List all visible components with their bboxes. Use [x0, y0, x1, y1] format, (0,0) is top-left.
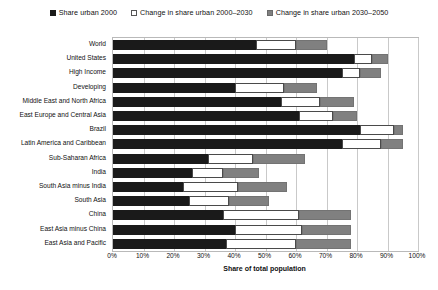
filled-gray-square-icon	[267, 10, 273, 16]
bar-segment	[189, 196, 229, 206]
bar-row	[113, 52, 418, 66]
x-axis-ticks: 0%10%20%30%40%50%60%70%80%90%100%	[112, 252, 417, 264]
bar-row	[113, 137, 418, 151]
category-label: East Asia minus China	[40, 222, 106, 236]
category-label: Latin America and Caribbean	[21, 136, 106, 150]
bar-segment	[113, 125, 360, 135]
category-label: East Europe and Central Asia	[19, 108, 106, 122]
bar-segment	[284, 83, 318, 93]
bar-row	[113, 38, 418, 52]
bar-segment	[229, 196, 269, 206]
bar-segment	[256, 40, 296, 50]
hollow-white-square-icon	[131, 10, 137, 16]
legend-item-change-2000-2030: Change in share urban 2000–2030	[131, 8, 253, 17]
x-axis-tick-label: 60%	[288, 252, 301, 259]
bar-row	[113, 81, 418, 95]
x-axis-tick-label: 50%	[258, 252, 271, 259]
x-axis-tick-label: 30%	[197, 252, 210, 259]
bar-segment	[226, 239, 296, 249]
bar-row	[113, 194, 418, 208]
legend-label: Change in share urban 2000–2030	[140, 8, 253, 17]
legend-label: Change in share urban 2030–2050	[276, 8, 389, 17]
category-label: South Asia minus India	[39, 179, 106, 193]
category-label: India	[92, 165, 106, 179]
bar-segment	[296, 40, 327, 50]
category-label: South Asia	[74, 193, 106, 207]
bar-segment	[113, 225, 235, 235]
category-label: Brazil	[90, 122, 107, 136]
bar-segment	[183, 182, 238, 192]
bar-segment	[223, 210, 299, 220]
bar-row	[113, 95, 418, 109]
bar-segment	[113, 210, 223, 220]
bar-segment	[354, 54, 372, 64]
bar-segment	[299, 210, 351, 220]
legend-item-change-2030-2050: Change in share urban 2030–2050	[267, 8, 389, 17]
bar-segment	[208, 154, 254, 164]
bar-segment	[113, 40, 256, 50]
bar-segment	[299, 111, 333, 121]
bar-segment	[113, 154, 208, 164]
bar-segment	[296, 239, 351, 249]
gridline	[418, 38, 419, 251]
bar-segment	[281, 97, 321, 107]
bar-row	[113, 66, 418, 80]
x-axis-tick-label: 10%	[136, 252, 149, 259]
bar-segment	[381, 139, 402, 149]
x-axis-tick-label: 70%	[319, 252, 332, 259]
x-axis-tick-label: 90%	[380, 252, 393, 259]
bar-segment	[235, 225, 302, 235]
bar-segment	[320, 97, 354, 107]
bar-row	[113, 237, 418, 251]
bar-segment	[113, 168, 192, 178]
bar-segment	[333, 111, 357, 121]
bar-row	[113, 166, 418, 180]
bar-segment	[360, 125, 394, 135]
plot-area	[112, 37, 419, 252]
bar-segment	[113, 239, 226, 249]
category-label: High Income	[69, 65, 106, 79]
bar-segment	[342, 139, 382, 149]
x-axis-tick-label: 40%	[227, 252, 240, 259]
bar-segment	[223, 168, 260, 178]
bar-segment	[235, 83, 284, 93]
bar-segment	[253, 154, 305, 164]
bar-segment	[113, 83, 235, 93]
bar-segment	[113, 97, 281, 107]
chart-legend: Share urban 2000 Change in share urban 2…	[0, 8, 438, 17]
bar-segment	[302, 225, 351, 235]
legend-label: Share urban 2000	[59, 8, 117, 17]
bar-row	[113, 180, 418, 194]
bar-segment	[342, 68, 360, 78]
category-label: Developing	[73, 80, 106, 94]
x-axis-tick-label: 0%	[107, 252, 117, 259]
bar-segment	[113, 182, 183, 192]
bar-segment	[113, 139, 342, 149]
filled-black-square-icon	[50, 10, 56, 16]
bar-row	[113, 152, 418, 166]
x-axis-title: Share of total population	[112, 265, 417, 272]
x-axis-tick-label: 80%	[349, 252, 362, 259]
bar-row	[113, 109, 418, 123]
bar-row	[113, 223, 418, 237]
x-axis-tick-label: 20%	[166, 252, 179, 259]
x-axis-tick-label: 100%	[409, 252, 426, 259]
bar-segment	[372, 54, 387, 64]
stacked-bar-chart: Share urban 2000 Change in share urban 2…	[0, 0, 438, 290]
category-label: World	[89, 37, 106, 51]
bar-segment	[394, 125, 403, 135]
bar-segment	[238, 182, 287, 192]
category-label: Sub-Saharan Africa	[49, 151, 106, 165]
category-label: China	[89, 207, 106, 221]
bar-segment	[113, 196, 189, 206]
category-axis-labels: WorldUnited StatesHigh IncomeDevelopingM…	[0, 37, 109, 250]
bar-segment	[113, 111, 299, 121]
bar-segment	[192, 168, 223, 178]
legend-item-share-urban-2000: Share urban 2000	[50, 8, 117, 17]
bar-row	[113, 208, 418, 222]
category-label: East Asia and Pacific	[44, 236, 106, 250]
bar-segment	[113, 68, 342, 78]
bar-row	[113, 123, 418, 137]
bar-segment	[113, 54, 354, 64]
category-label: United States	[66, 51, 106, 65]
